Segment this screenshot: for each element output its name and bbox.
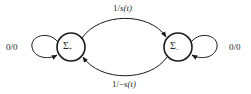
edge-minus-to-plus: [83, 57, 167, 76]
label-prefix: 1/: [113, 3, 120, 13]
edge-label-bottom: 1/−s(t): [112, 80, 136, 89]
label-prefix: 1/−: [112, 79, 124, 89]
self-loop-plus: [32, 35, 58, 57]
node-label-sigma-plus: Σ+: [63, 41, 72, 52]
node-subscript: +: [69, 46, 72, 52]
node-label-sigma-minus: Σ−: [170, 41, 179, 52]
label-variable: s(t): [120, 3, 132, 13]
edge-label-top: 1/s(t): [113, 4, 132, 13]
edge-plus-to-minus: [82, 18, 166, 38]
node-subscript: −: [176, 46, 179, 52]
loop-label-left: 0/0: [6, 43, 18, 52]
label-variable: s(t): [124, 79, 136, 89]
state-diagram: Σ+ Σ− 1/s(t) 1/−s(t) 0/0 0/0: [0, 0, 251, 94]
self-loop-minus: [191, 35, 217, 57]
loop-label-right: 0/0: [229, 43, 241, 52]
